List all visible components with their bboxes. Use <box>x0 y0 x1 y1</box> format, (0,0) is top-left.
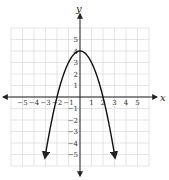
x-tick-label: 3 <box>112 99 116 107</box>
y-tick-label: −2 <box>68 117 78 125</box>
y-tick-label: −3 <box>68 128 78 136</box>
x-tick-label: 1 <box>89 99 93 107</box>
y-tick-label: 1 <box>74 82 78 90</box>
y-axis-label: y <box>75 3 82 14</box>
y-tick-label: 2 <box>74 71 78 79</box>
x-tick-label: −5 <box>17 99 27 107</box>
y-tick-label: −5 <box>68 151 78 159</box>
y-tick-label: −4 <box>68 140 79 148</box>
parabola-chart: −5−4−3−2−112345−5−4−3−2−112345 x y <box>0 0 169 180</box>
x-axis-label: x <box>160 92 166 103</box>
axes <box>3 14 157 176</box>
x-tick-label: −4 <box>29 99 40 107</box>
y-tick-label: −1 <box>68 105 78 113</box>
x-tick-label: 4 <box>124 99 129 107</box>
x-tick-label: −3 <box>40 99 50 107</box>
y-tick-label: 3 <box>74 59 78 67</box>
x-tick-label: −2 <box>52 99 62 107</box>
x-tick-label: 5 <box>135 99 139 107</box>
y-tick-label: 5 <box>74 36 78 44</box>
